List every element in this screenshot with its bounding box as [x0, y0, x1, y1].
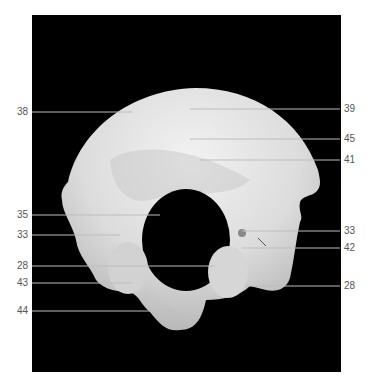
label-39: 39	[344, 104, 355, 114]
condyle-right	[208, 246, 248, 298]
label-44: 44	[2, 306, 28, 316]
condylar-fossa	[238, 229, 246, 237]
occipital-bone-illustration	[0, 0, 370, 384]
label-35: 35	[2, 210, 28, 220]
label-33-left: 33	[2, 230, 28, 240]
label-28-right: 28	[344, 281, 355, 291]
condyle-left	[108, 242, 148, 294]
figure-caption-clipped	[32, 379, 232, 384]
label-38: 38	[2, 107, 28, 117]
label-42: 42	[344, 243, 355, 253]
label-33-right: 33	[344, 226, 355, 236]
label-43: 43	[2, 278, 28, 288]
label-41: 41	[344, 155, 355, 165]
label-28-left: 28	[2, 261, 28, 271]
label-45: 45	[344, 134, 355, 144]
